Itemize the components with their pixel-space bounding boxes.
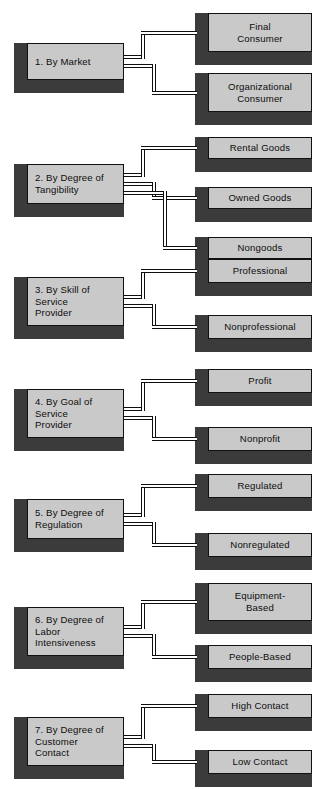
box-face: 1. By Market	[27, 43, 124, 80]
box-face: 6. By Degree of Labor Intensiveness	[27, 607, 124, 656]
box-face: 2. By Degree of Tangibility	[27, 164, 124, 204]
box-face: Profit	[208, 369, 312, 393]
box-face: 4. By Goal of Service Provider	[27, 389, 124, 438]
category-box-4: 4. By Goal of Service Provider	[14, 389, 124, 451]
box-face: 3. By Skill of Service Provider	[27, 277, 124, 326]
category-box-2-label: 2. By Degree of Tangibility	[28, 172, 123, 195]
connector-segment	[152, 760, 197, 764]
category-box-6-label: 6. By Degree of Labor Intensiveness	[28, 614, 123, 649]
leaf-box-1-2: Organizational Consumer	[195, 73, 312, 125]
connector-segment	[124, 191, 167, 195]
leaf-box-3-2-label: Nonprofessional	[209, 321, 311, 333]
connector-segment	[141, 379, 145, 411]
leaf-box-4-1: Profit	[195, 369, 312, 406]
leaf-box-6-1: Equipment- Based	[195, 583, 312, 634]
connector-segment	[141, 379, 197, 383]
box-face: Equipment- Based	[208, 583, 312, 621]
connector-segment	[141, 704, 145, 739]
leaf-box-4-2-label: Nonprofit	[209, 433, 311, 445]
connector-segment	[141, 600, 145, 629]
leaf-box-1-1: Final Consumer	[195, 13, 312, 65]
category-box-7-label: 7. By Degree of Customer Contact	[28, 724, 123, 759]
leaf-box-6-2: People-Based	[195, 645, 312, 682]
leaf-box-2-2-label: Owned Goods	[209, 192, 311, 204]
box-face: Owned Goods	[208, 187, 312, 209]
box-face: 5. By Degree of Regulation	[27, 499, 124, 539]
leaf-box-5-2: Nonregulated	[195, 533, 312, 570]
leaf-box-2-1: Rental Goods	[195, 137, 312, 172]
box-face: Nongoods	[208, 237, 312, 259]
leaf-box-7-1-label: High Contact	[209, 700, 311, 712]
box-face: Nonregulated	[208, 533, 312, 557]
connector-segment	[152, 655, 197, 659]
box-face: Regulated	[208, 474, 312, 498]
category-box-3: 3. By Skill of Service Provider	[14, 277, 124, 339]
leaf-box-5-1: Regulated	[195, 474, 312, 511]
leaf-box-3-1-label: Professional	[209, 265, 311, 277]
connector-segment	[141, 146, 145, 177]
box-face: 7. By Degree of Customer Contact	[27, 717, 124, 766]
connector-segment	[163, 246, 197, 250]
leaf-box-7-2: Low Contact	[195, 750, 312, 787]
category-box-6: 6. By Degree of Labor Intensiveness	[14, 607, 124, 669]
leaf-box-3-1: Professional	[195, 259, 312, 296]
box-face: Organizational Consumer	[208, 73, 312, 112]
classification-diagram: 1. By MarketFinal ConsumerOrganizational…	[0, 0, 326, 789]
connector-segment	[141, 704, 197, 708]
connector-segment	[152, 437, 197, 441]
connector-segment	[152, 196, 197, 200]
connector-segment	[141, 146, 197, 150]
category-box-1: 1. By Market	[14, 43, 124, 93]
leaf-box-4-2: Nonprofit	[195, 427, 312, 464]
category-box-4-label: 4. By Goal of Service Provider	[28, 396, 123, 431]
leaf-box-7-2-label: Low Contact	[209, 756, 311, 768]
leaf-box-2-3-label: Nongoods	[209, 242, 311, 254]
connector-segment	[141, 269, 197, 273]
leaf-box-1-2-label: Organizational Consumer	[209, 81, 311, 104]
box-face: Low Contact	[208, 750, 312, 774]
leaf-box-4-1-label: Profit	[209, 375, 311, 387]
leaf-box-5-2-label: Nonregulated	[209, 539, 311, 551]
box-face: Professional	[208, 259, 312, 283]
category-box-2: 2. By Degree of Tangibility	[14, 164, 124, 217]
connector-segment	[152, 91, 197, 95]
category-box-3-label: 3. By Skill of Service Provider	[28, 284, 123, 319]
box-face: Final Consumer	[208, 13, 312, 52]
category-box-7: 7. By Degree of Customer Contact	[14, 717, 124, 779]
connector-segment	[141, 484, 145, 517]
leaf-box-2-1-label: Rental Goods	[209, 142, 311, 154]
box-face: High Contact	[208, 694, 312, 718]
connector-segment	[152, 325, 197, 329]
connector-segment	[163, 191, 167, 250]
leaf-box-2-2: Owned Goods	[195, 187, 312, 222]
connector-segment	[141, 600, 197, 604]
leaf-box-3-2: Nonprofessional	[195, 315, 312, 352]
category-box-5-label: 5. By Degree of Regulation	[28, 507, 123, 530]
connector-segment	[141, 269, 145, 299]
connector-segment	[152, 543, 197, 547]
box-face: Rental Goods	[208, 137, 312, 159]
category-box-5: 5. By Degree of Regulation	[14, 499, 124, 552]
box-face: Nonprofit	[208, 427, 312, 451]
category-box-1-label: 1. By Market	[28, 56, 123, 68]
box-face: People-Based	[208, 645, 312, 669]
connector-segment	[141, 31, 197, 35]
leaf-box-6-2-label: People-Based	[209, 651, 311, 663]
leaf-box-1-1-label: Final Consumer	[209, 21, 311, 44]
connector-segment	[141, 484, 197, 488]
leaf-box-5-1-label: Regulated	[209, 480, 311, 492]
box-face: Nonprofessional	[208, 315, 312, 339]
leaf-box-6-1-label: Equipment- Based	[209, 590, 311, 613]
leaf-box-7-1: High Contact	[195, 694, 312, 731]
